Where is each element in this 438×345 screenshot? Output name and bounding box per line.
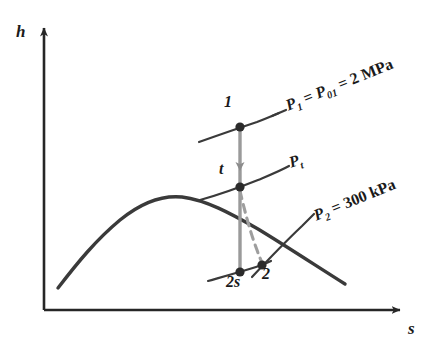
state-label-2: 2 [262,266,270,282]
isobar-line-pt [200,166,289,200]
state-point-1 [235,122,244,131]
x-axis-label: s [408,320,415,337]
leader-line-p1-label [272,110,286,116]
state-label-2s: 2s [226,274,240,290]
y-axis-label: h [16,23,25,40]
process-line-actual-dashed [240,191,262,263]
saturation-dome-curve [58,197,345,288]
state-label-t: t [219,161,223,177]
hs-diagram-figure: h s 1 t 2s 2 P1 = P01 = 2 MPa Pt P2 = 30… [0,0,438,345]
state-point-t [235,182,244,191]
state-label-1: 1 [224,94,232,110]
